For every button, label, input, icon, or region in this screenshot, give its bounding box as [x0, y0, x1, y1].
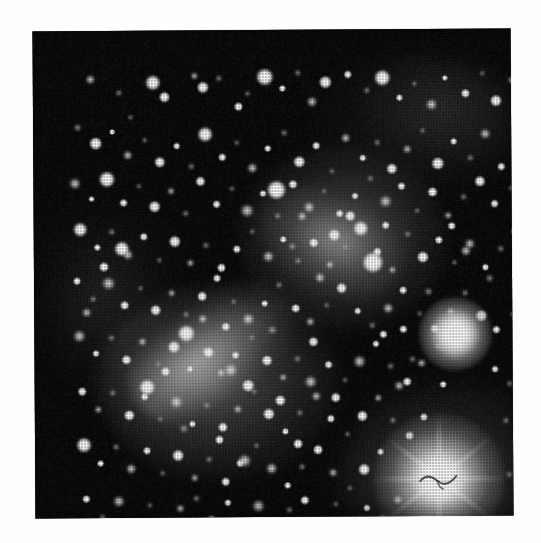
star-point-source: [167, 340, 180, 353]
star-point-source: [97, 460, 104, 467]
star-point-source: [510, 225, 513, 236]
star-point-source: [333, 501, 338, 506]
star-point-source: [491, 200, 499, 208]
star-point-source: [481, 263, 488, 270]
star-point-source: [116, 90, 122, 96]
star-point-source: [460, 88, 469, 97]
star-point-source: [77, 438, 91, 452]
star-point-source: [90, 296, 96, 302]
star-point-source: [77, 387, 86, 396]
star-point-source: [120, 300, 129, 309]
star-point-source: [306, 318, 314, 326]
star-point-source: [336, 282, 347, 293]
star-point-source: [198, 314, 207, 323]
star-point-source: [305, 376, 317, 388]
star-point-source: [99, 514, 105, 518]
sky-canvas: [33, 29, 514, 519]
star-point-source: [197, 81, 209, 93]
star-point-source: [288, 242, 295, 249]
star-point-source: [492, 326, 500, 334]
star-point-source: [139, 379, 154, 394]
star-point-source: [73, 277, 81, 285]
star-point-source: [143, 447, 151, 455]
star-point-source: [251, 389, 256, 394]
star-point-source: [109, 129, 115, 135]
star-point-source: [167, 187, 174, 194]
star-point-source: [82, 495, 90, 503]
star-point-source: [462, 290, 468, 296]
star-point-source: [236, 459, 244, 467]
star-point-source: [264, 145, 271, 152]
star-point-source: [216, 263, 225, 272]
star-point-source: [99, 262, 109, 272]
star-point-source: [347, 485, 352, 490]
star-point-source: [326, 261, 334, 269]
star-point-source: [263, 408, 275, 420]
star-point-source: [186, 259, 193, 266]
star-point-source: [364, 87, 370, 93]
star-point-source: [467, 155, 473, 161]
star-point-source: [336, 210, 344, 218]
star-point-source: [85, 75, 94, 84]
star-point-source: [351, 192, 358, 199]
star-point-source: [284, 481, 291, 488]
star-point-source: [331, 393, 341, 403]
star-point-source: [344, 431, 349, 436]
star-point-source: [388, 266, 395, 273]
star-point-source: [293, 439, 303, 449]
star-point-source: [451, 259, 456, 264]
star-point-source: [508, 185, 513, 190]
star-point-source: [309, 238, 319, 248]
star-point-source: [69, 178, 80, 189]
star-point-source: [141, 393, 149, 401]
star-point-source: [354, 307, 361, 314]
star-point-source: [329, 469, 337, 477]
star-point-source: [201, 347, 207, 353]
star-point-source: [367, 175, 373, 181]
star-point-source: [461, 246, 471, 256]
star-point-source: [102, 276, 115, 289]
star-point-source: [394, 381, 403, 390]
star-point-source: [266, 462, 277, 473]
star-point-source: [108, 335, 114, 341]
star-point-source: [278, 84, 285, 91]
star-point-source: [359, 154, 366, 161]
star-point-source: [242, 313, 254, 325]
star-point-source: [414, 208, 419, 213]
star-point-source: [233, 245, 241, 253]
star-point-source: [169, 236, 181, 248]
star-point-source: [342, 377, 347, 382]
star-point-source: [233, 102, 242, 111]
star-point-source: [486, 274, 493, 281]
star-point-source: [183, 211, 189, 217]
star-point-source: [425, 288, 432, 295]
star-point-source: [465, 239, 475, 249]
star-point-source: [354, 221, 368, 235]
star-point-source: [240, 204, 253, 217]
star-point-source: [99, 171, 114, 186]
star-point-source: [155, 361, 160, 366]
star-point-source: [193, 495, 199, 501]
star-point-source: [431, 156, 444, 169]
star-point-source: [324, 302, 329, 307]
bright-star-lower-right: [373, 413, 506, 519]
diffuse-glow-upper-cluster: [237, 145, 448, 331]
star-point-source: [241, 379, 254, 392]
star-point-source: [218, 422, 228, 432]
star-point-source: [382, 221, 390, 229]
star-point-source: [329, 168, 334, 173]
star-point-source: [120, 199, 128, 207]
star-point-source: [229, 186, 234, 191]
star-point-source: [224, 499, 231, 506]
diffuse-glow-left: [33, 197, 181, 398]
star-point-source: [252, 500, 264, 512]
star-point-source: [286, 507, 292, 513]
star-point-source: [113, 495, 124, 506]
star-point-source: [206, 456, 212, 462]
star-point-source: [420, 128, 425, 133]
star-point-source: [479, 70, 484, 75]
star-point-source: [279, 373, 286, 380]
star-point-source: [311, 391, 320, 400]
star-point-source: [425, 98, 436, 109]
star-point-source: [213, 200, 221, 208]
